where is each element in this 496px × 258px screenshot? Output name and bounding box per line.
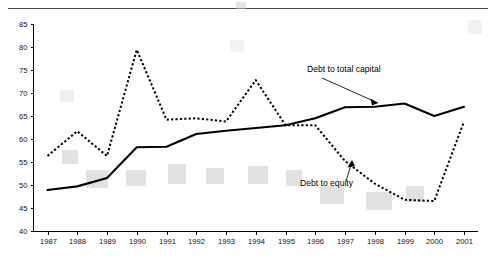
x-tick-label: 1999: [397, 237, 414, 246]
y-tick-labels: 40455055606570758085: [19, 20, 27, 236]
y-tick-label: 65: [19, 112, 27, 121]
series-line-debt-to-equity: [48, 50, 465, 201]
y-tick-label: 75: [19, 66, 27, 75]
x-tick-label: 1996: [307, 237, 324, 246]
line-chart-plot: 40455055606570758085 1987198819891990199…: [0, 0, 496, 258]
leader-arrowhead-equity: [348, 160, 356, 168]
leader-line-total-capital: [322, 78, 378, 103]
x-tick-label: 1987: [40, 237, 57, 246]
y-tick-label: 55: [19, 158, 27, 167]
leader-arrowhead-total-capital: [371, 99, 379, 106]
y-tick-label: 80: [19, 43, 27, 52]
series-line-debt-to-total-capital: [48, 104, 465, 190]
x-tick-label: 1991: [159, 237, 176, 246]
annotation-debt-to-equity: Debt to equity: [300, 160, 355, 188]
y-tick-label: 60: [19, 135, 27, 144]
x-axis: 1987198819891990199119921993199419951996…: [34, 232, 479, 247]
y-tick-label: 40: [19, 227, 27, 236]
chart-figure: 40455055606570758085 1987198819891990199…: [0, 0, 496, 258]
x-tick-label: 2000: [426, 237, 443, 246]
x-tick-marks: [49, 232, 465, 235]
y-tick-label: 85: [19, 20, 27, 29]
x-tick-label: 1992: [188, 237, 205, 246]
x-tick-labels: 1987198819891990199119921993199419951996…: [40, 237, 473, 246]
x-tick-label: 1994: [248, 237, 265, 246]
x-tick-label: 1993: [218, 237, 235, 246]
annotation-label-debt-to-total-capital: Debt to total capital: [307, 64, 381, 74]
x-tick-label: 1988: [69, 237, 86, 246]
x-tick-label: 1989: [99, 237, 116, 246]
y-tick-label: 70: [19, 89, 27, 98]
x-tick-label: 2001: [456, 237, 473, 246]
annotation-debt-to-total-capital: Debt to total capital: [307, 64, 381, 106]
x-tick-label: 1998: [367, 237, 384, 246]
y-tick-label: 50: [19, 181, 27, 190]
y-tick-label: 45: [19, 204, 27, 213]
x-tick-label: 1995: [278, 237, 295, 246]
annotation-label-debt-to-equity: Debt to equity: [300, 178, 354, 188]
x-tick-label: 1990: [129, 237, 146, 246]
x-tick-label: 1997: [337, 237, 354, 246]
y-axis: 40455055606570758085: [19, 20, 33, 236]
